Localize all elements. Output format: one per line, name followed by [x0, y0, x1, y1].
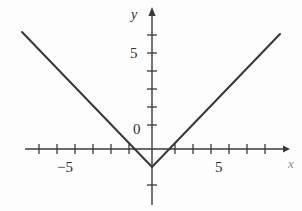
coordinate-plane: [0, 0, 302, 211]
x-axis-arrowhead: [283, 145, 290, 152]
y-axis-arrowhead: [148, 7, 155, 16]
y-axis-label: y: [131, 8, 137, 22]
y-tick-label-5: 5: [130, 46, 138, 61]
x-axis-label: x: [288, 157, 294, 170]
x-tick-label-5: 5: [215, 160, 223, 175]
origin-label: 0: [133, 122, 141, 137]
x-tick-label-negative-5: −5: [57, 160, 73, 175]
graph-figure: y x 5 0 −5 5: [0, 0, 302, 211]
absolute-value-curve: [22, 32, 280, 167]
